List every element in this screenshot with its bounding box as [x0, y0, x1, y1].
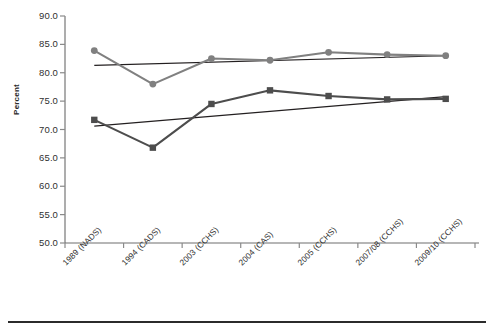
y-tick-label: 60.0 [18, 180, 58, 191]
y-tick-label: 80.0 [18, 67, 58, 78]
y-tick-label: 85.0 [18, 38, 58, 49]
data-point-square [267, 87, 273, 93]
data-point-square [384, 96, 390, 102]
y-tick-label: 65.0 [18, 152, 58, 163]
data-point-square [443, 96, 449, 102]
data-point-circle [442, 52, 449, 59]
y-tick-label: 55.0 [18, 209, 58, 220]
data-point-circle [91, 47, 98, 54]
data-point-square [325, 93, 331, 99]
data-point-circle [384, 51, 391, 58]
y-tick-label: 90.0 [18, 10, 58, 21]
footer-divider [8, 321, 486, 323]
chart-figure: Percent 90.085.080.075.070.065.060.055.0… [0, 0, 493, 333]
data-point-circle [267, 57, 274, 64]
y-tick-label: 75.0 [18, 95, 58, 106]
data-point-circle [149, 81, 156, 88]
data-point-circle [208, 55, 215, 62]
data-point-square [208, 101, 214, 107]
data-point-square [150, 144, 156, 150]
plot-area [0, 0, 493, 333]
data-point-circle [325, 49, 332, 56]
y-tick-label: 70.0 [18, 124, 58, 135]
y-tick-label: 50.0 [18, 237, 58, 248]
trendline-lower [94, 97, 445, 127]
series-line-square [94, 90, 445, 147]
series-line-circle [94, 51, 445, 84]
data-point-square [91, 117, 97, 123]
